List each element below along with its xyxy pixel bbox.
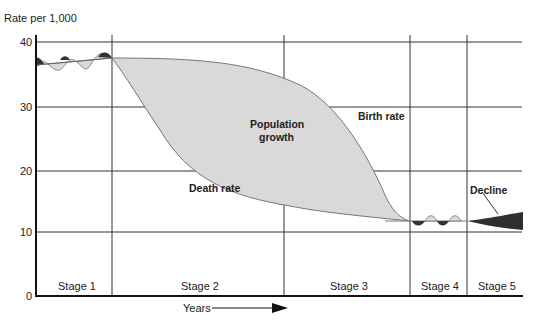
annotation-death-rate: Death rate: [189, 182, 241, 194]
stage-1-label: Stage 1: [58, 280, 96, 292]
decline-area: [467, 212, 523, 230]
y-axis-title: Rate per 1,000: [4, 12, 77, 24]
annotation-decline: Decline: [470, 184, 508, 196]
y-tick-0: 0: [26, 290, 32, 302]
demographic-transition-chart: Rate per 1,000 40 30 20 10 0 Stage 1 Sta…: [0, 0, 540, 331]
stage-4-label: Stage 4: [421, 280, 459, 292]
y-tick-10: 10: [20, 226, 32, 238]
stage-3-label: Stage 3: [330, 280, 368, 292]
arrow-right-icon: [272, 303, 288, 313]
y-tick-40: 40: [20, 36, 32, 48]
stage-5-label: Stage 5: [478, 280, 516, 292]
annotation-growth: growth: [259, 131, 294, 143]
stage-2-label: Stage 2: [181, 280, 219, 292]
annotation-birth-rate: Birth rate: [358, 110, 405, 122]
y-tick-30: 30: [20, 101, 32, 113]
annotation-population: Population: [250, 118, 304, 130]
x-axis-title: Years: [183, 302, 211, 314]
stage1-oscillations: [36, 53, 112, 71]
y-tick-20: 20: [20, 165, 32, 177]
